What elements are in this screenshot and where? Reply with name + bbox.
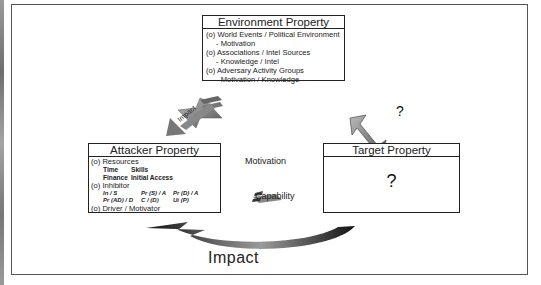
attacker-property-box: Attacker Property (o) Resources Time Ski… — [88, 143, 221, 213]
env-line: - Motivation — [206, 39, 341, 48]
resource-item: Finance — [103, 174, 131, 182]
inhibitor-label: (o) Inhibitor — [91, 181, 218, 190]
bottom-impact-label: Impact — [208, 249, 259, 267]
driver-label: (o) Driver / Motivator — [91, 204, 218, 213]
target-property-box: Target Property ? — [323, 143, 460, 213]
inhibitor-item: Pr (D) / A — [173, 190, 203, 197]
inhibitor-item: Pr (AD) / D — [103, 197, 141, 204]
env-line: (o) Associations / Intel Sources — [206, 48, 341, 57]
resource-item: Time — [103, 166, 131, 174]
resources-label: (o) Resources — [91, 157, 218, 166]
bottom-impact-arrow-icon — [146, 222, 355, 249]
target-title: Target Property — [324, 144, 459, 157]
resource-item: Skills — [131, 166, 181, 174]
impact-arrow-icon — [166, 96, 223, 136]
inhibitor-item: Ui (P) — [173, 197, 203, 204]
inhibitor-grid: In / S Pr (S) / A Pr (D) / A Pr (AD) / D… — [91, 190, 218, 204]
attacker-title: Attacker Property — [89, 144, 220, 157]
environment-lines: (o) World Events / Political Environment… — [203, 29, 344, 85]
target-unknown: ? — [324, 157, 459, 192]
env-line: (o) World Events / Political Environment — [206, 30, 341, 39]
env-line: - Motivation / Knowledge — [206, 75, 341, 84]
environment-property-box: Environment Property (o) World Events / … — [202, 15, 345, 81]
env-line: - Knowledge / Intel — [206, 57, 341, 66]
resources-grid: Time Skills Finance Initial Access — [91, 166, 218, 181]
inhibitor-item: Pr (S) / A — [141, 190, 173, 197]
environment-title: Environment Property — [203, 16, 344, 29]
resource-item: Initial Access — [131, 174, 181, 182]
env-line: (o) Adversary Activity Groups — [206, 66, 341, 75]
inhibitor-item: C / (D) — [141, 197, 173, 204]
env-target-question: ? — [396, 103, 404, 119]
motivation-label: Motivation — [245, 156, 286, 166]
inhibitor-item: In / S — [103, 190, 141, 197]
attacker-lines: (o) Resources Time Skills Finance Initia… — [89, 157, 220, 213]
capability-label: Capability — [255, 191, 295, 201]
